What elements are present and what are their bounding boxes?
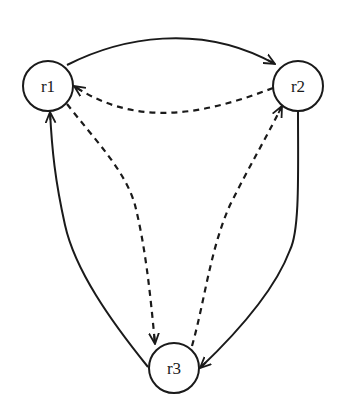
- node-r3-label: r3: [167, 359, 181, 378]
- graph-canvas: r1 r2 r3: [0, 0, 341, 419]
- node-r1: r1: [23, 61, 73, 111]
- edge-r3-to-r1: [50, 112, 148, 367]
- node-r1-label: r1: [41, 77, 55, 96]
- node-r2: r2: [273, 61, 323, 111]
- edge-r3-to-r2: [192, 106, 282, 346]
- edge-r2-to-r1: [74, 86, 273, 113]
- edge-r1-to-r2: [67, 38, 275, 65]
- node-r2-label: r2: [291, 77, 305, 96]
- node-r3: r3: [149, 343, 199, 393]
- edge-r2-to-r3: [200, 112, 298, 368]
- edge-r1-to-r3: [67, 104, 155, 344]
